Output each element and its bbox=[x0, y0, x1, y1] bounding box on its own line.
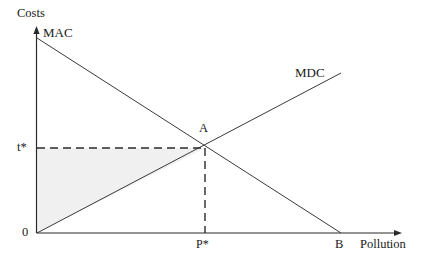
unregulated-pollution-label: B bbox=[335, 238, 343, 251]
origin-label: 0 bbox=[22, 226, 28, 239]
optimal-tax-label: t* bbox=[17, 141, 27, 154]
diagram-canvas bbox=[0, 0, 429, 269]
x-axis-arrowhead bbox=[394, 230, 402, 236]
y-axis-title: Costs bbox=[17, 7, 45, 20]
pollution-tax-diagram: Costs MAC MDC A t* 0 P* B Pollution bbox=[0, 0, 429, 269]
intersection-point-label: A bbox=[199, 122, 208, 135]
mdc-curve-label: MDC bbox=[295, 66, 325, 79]
x-axis-title: Pollution bbox=[360, 238, 406, 251]
y-axis-arrowhead bbox=[33, 26, 39, 34]
optimal-pollution-label: P* bbox=[196, 238, 209, 250]
mac-curve-label: MAC bbox=[43, 26, 73, 39]
